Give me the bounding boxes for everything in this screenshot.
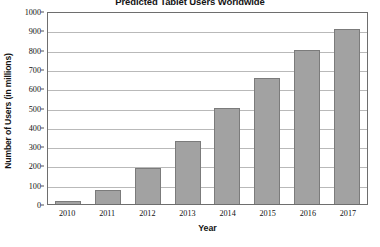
x-tick-label: 2012 bbox=[127, 206, 167, 218]
y-tick-label: 500 bbox=[11, 104, 41, 113]
y-tick-label: 0 bbox=[11, 201, 41, 210]
y-tick-mark bbox=[41, 147, 44, 148]
chart-title: Predicted Tablet Users Worldwide bbox=[0, 0, 380, 7]
y-tick-label: 200 bbox=[11, 162, 41, 171]
y-tick-mark bbox=[41, 31, 44, 32]
y-tick-label: 100 bbox=[11, 181, 41, 190]
plot-area bbox=[47, 12, 368, 205]
bar bbox=[135, 168, 161, 204]
bar bbox=[334, 29, 360, 204]
chart-figure: Predicted Tablet Users Worldwide Number … bbox=[0, 0, 380, 247]
y-tick-mark bbox=[41, 127, 44, 128]
y-tick-label: 600 bbox=[11, 85, 41, 94]
bar bbox=[254, 78, 280, 204]
bar bbox=[294, 50, 320, 204]
x-tick-label: 2017 bbox=[328, 206, 368, 218]
bar bbox=[214, 108, 240, 204]
y-tick-mark bbox=[41, 166, 44, 167]
x-tick-label: 2013 bbox=[167, 206, 207, 218]
x-tick-label: 2011 bbox=[87, 206, 127, 218]
x-tick-label: 2016 bbox=[288, 206, 328, 218]
bar bbox=[95, 190, 121, 204]
y-tick-label: 400 bbox=[11, 123, 41, 132]
x-tick-label: 2015 bbox=[248, 206, 288, 218]
y-tick-label: 1000 bbox=[11, 8, 41, 17]
y-tick-label: 300 bbox=[11, 143, 41, 152]
y-tick-mark bbox=[41, 185, 44, 186]
x-tick-label: 2014 bbox=[208, 206, 248, 218]
y-tick-label: 800 bbox=[11, 46, 41, 55]
y-tick-mark bbox=[41, 50, 44, 51]
y-tick-mark bbox=[41, 89, 44, 90]
x-axis-title: Year bbox=[47, 223, 368, 233]
y-tick-mark bbox=[41, 108, 44, 109]
y-tick-mark bbox=[41, 12, 44, 13]
bar-series bbox=[48, 13, 367, 204]
y-tick-label: 900 bbox=[11, 27, 41, 36]
bar bbox=[55, 201, 81, 204]
bar bbox=[175, 141, 201, 204]
y-tick-mark bbox=[41, 205, 44, 206]
y-tick-label: 700 bbox=[11, 65, 41, 74]
y-axis-tick-labels: 01002003004005006007008009001000 bbox=[14, 12, 44, 205]
x-axis-tick-labels: 20102011201220132014201520162017 bbox=[47, 206, 368, 222]
y-tick-mark bbox=[41, 69, 44, 70]
x-tick-label: 2010 bbox=[47, 206, 87, 218]
